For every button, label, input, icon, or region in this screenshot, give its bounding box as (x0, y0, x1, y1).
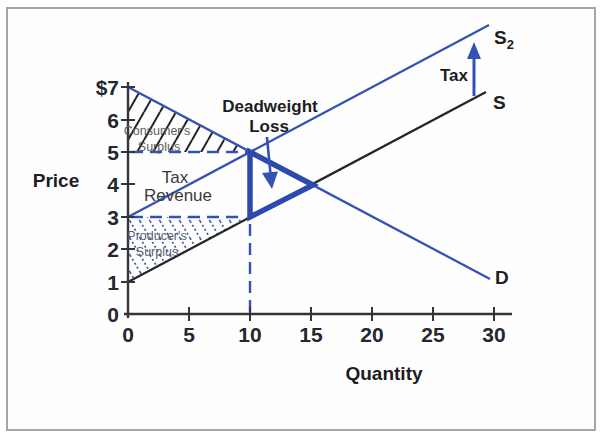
demand-label: D (495, 267, 509, 288)
tax-revenue-label-line2: Revenue (144, 186, 212, 205)
consumers-surplus-label-line1: Consumer's (124, 124, 190, 138)
x-axis-title: Quantity (345, 363, 422, 384)
y-tick-7: $7 (96, 76, 119, 99)
deadweight-loss-label-line2: Loss (249, 117, 289, 136)
y-tick-3: 3 (107, 206, 119, 229)
producers-surplus-label-line2: Surplus (136, 245, 178, 259)
y-tick-2: 2 (107, 238, 119, 261)
x-tick-30: 30 (482, 323, 505, 346)
graph-canvas: $7 6 5 4 3 2 1 0 0 5 10 15 20 25 30 Pric… (0, 0, 602, 438)
x-tick-10: 10 (238, 323, 261, 346)
y-tick-5: 5 (107, 141, 119, 164)
supply-label: S (493, 92, 506, 113)
x-tick-0: 0 (122, 323, 134, 346)
x-tick-15: 15 (299, 323, 323, 346)
y-tick-6: 6 (107, 109, 119, 132)
deadweight-loss-label-line1: Deadweight (222, 97, 318, 116)
consumers-surplus-label-line2: Surplus (138, 140, 180, 154)
x-tick-20: 20 (360, 323, 383, 346)
producers-surplus-label-line1: Producer's (127, 229, 186, 243)
tax-arrow-label: Tax (440, 66, 469, 85)
y-tick-4: 4 (107, 173, 119, 196)
y-tick-1: 1 (107, 271, 119, 294)
y-axis-title: Price (33, 170, 79, 191)
figure-border (7, 8, 595, 430)
supply-plus-tax-label-sub: 2 (507, 37, 514, 52)
figure-economics-tax-graph: $7 6 5 4 3 2 1 0 0 5 10 15 20 25 30 Pric… (0, 0, 602, 438)
tax-revenue-label-line1: Tax (162, 168, 189, 187)
supply-plus-tax-label-main: S (494, 27, 507, 48)
x-tick-5: 5 (183, 323, 195, 346)
y-tick-0: 0 (107, 303, 119, 326)
x-tick-25: 25 (421, 323, 445, 346)
